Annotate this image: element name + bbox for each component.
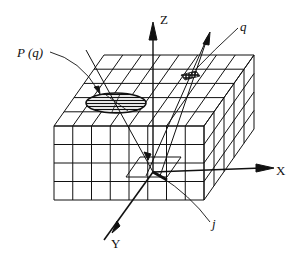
projection-ellipse bbox=[86, 93, 146, 113]
projection-label: P (q) bbox=[16, 45, 43, 60]
top-grid-depth-line bbox=[129, 55, 179, 126]
right-grid-depth-line bbox=[204, 74, 254, 145]
leader-lines bbox=[50, 28, 238, 222]
right-grid-depth-line bbox=[204, 55, 254, 126]
top-grid-depth-line bbox=[167, 55, 217, 126]
y-axis-label: Y bbox=[111, 236, 121, 251]
voxel-grid-diagram: Z X Y P (q) q j bbox=[0, 0, 298, 265]
z-axis-arrow-icon bbox=[149, 22, 157, 40]
leader-q bbox=[195, 28, 238, 70]
right-grid-depth-line bbox=[204, 111, 254, 182]
ray-j-label: j bbox=[210, 216, 216, 231]
right-grid-depth-line bbox=[204, 92, 254, 163]
top-grid-depth-line bbox=[185, 55, 235, 126]
point-q-label: q bbox=[240, 19, 247, 34]
z-axis-label: Z bbox=[160, 12, 168, 27]
ray-arrowhead-origin-icon bbox=[144, 152, 151, 160]
leader-p-q bbox=[50, 52, 98, 90]
x-axis bbox=[153, 168, 262, 172]
x-axis-arrow-icon bbox=[256, 164, 274, 172]
right-grid-depth-line bbox=[204, 129, 254, 200]
ray-arrow-icon bbox=[203, 32, 210, 45]
x-axis-label: X bbox=[276, 163, 286, 178]
leader-p-q-arrow-icon bbox=[94, 86, 100, 94]
voxel-grid-block bbox=[54, 55, 254, 200]
